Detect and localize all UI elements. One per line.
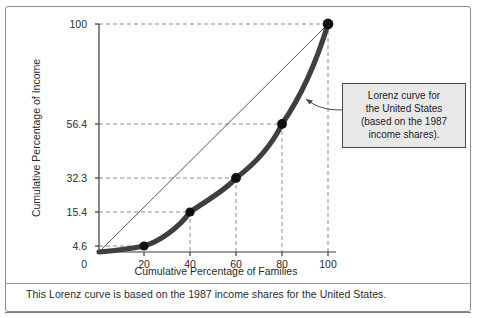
x-axis-ticks	[144, 252, 328, 256]
figure-caption: This Lorenz curve is based on the 1987 i…	[26, 288, 386, 300]
annotation-line-3: (based on the 1987	[347, 115, 461, 128]
y-axis-title: Cumulative Percentage of Income	[30, 43, 42, 233]
lorenz-curve-figure: 100 56.4 32.3 15.4 4.6 0 20 40 60 80 100…	[0, 0, 489, 318]
equality-line	[99, 24, 328, 252]
ytick-label-56.4: 56.4	[47, 118, 87, 130]
data-point-60-32.3	[231, 173, 241, 183]
annotation-line-2: the United States	[347, 102, 461, 115]
caption-divider	[5, 283, 471, 284]
data-point-20-4.6	[139, 241, 148, 250]
annotation-callout-box: Lorenz curve for the United States (base…	[342, 83, 466, 148]
ytick-label-100: 100	[47, 18, 87, 30]
ytick-label-15.4: 15.4	[47, 206, 87, 218]
ytick-label-4.6: 4.6	[47, 240, 87, 252]
annotation-line-4: income shares).	[347, 128, 461, 141]
ytick-label-32.3: 32.3	[47, 172, 87, 184]
x-axis-title: Cumulative Percentage of Families	[66, 265, 366, 277]
gridlines-horizontal	[99, 24, 328, 246]
figure-frame: 100 56.4 32.3 15.4 4.6 0 20 40 60 80 100…	[5, 6, 471, 312]
data-point-100-100	[323, 19, 334, 30]
plot-area: 100 56.4 32.3 15.4 4.6 0 20 40 60 80 100…	[6, 7, 472, 285]
data-point-80-56.4	[277, 119, 287, 129]
annotation-line-1: Lorenz curve for	[347, 89, 461, 102]
bottom-rule	[5, 312, 471, 313]
gridlines-vertical	[144, 24, 328, 252]
data-point-40-15.4	[185, 207, 194, 216]
